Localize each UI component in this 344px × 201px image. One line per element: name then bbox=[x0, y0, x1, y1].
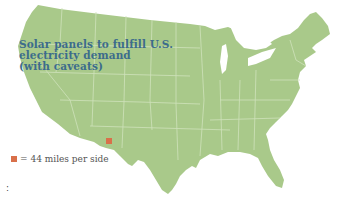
solar-area-square bbox=[106, 138, 112, 144]
legend-square-icon bbox=[11, 156, 17, 162]
map-title: Solar panels to fulfill U.S. electricity… bbox=[19, 39, 189, 72]
us-landmass bbox=[18, 5, 330, 194]
title-line-3: (with caveats) bbox=[19, 61, 189, 72]
legend-text: = 44 miles per side bbox=[20, 154, 109, 164]
us-map bbox=[0, 0, 344, 201]
footer-colon: : bbox=[6, 183, 9, 193]
legend: = 44 miles per side bbox=[11, 154, 109, 164]
